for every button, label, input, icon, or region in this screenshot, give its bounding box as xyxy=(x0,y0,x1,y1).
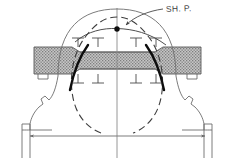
tick-mark-upper xyxy=(92,38,104,47)
shp-label: SH. P. xyxy=(166,3,192,14)
tick-mark-upper xyxy=(72,38,84,47)
figure-canvas: SH. P. xyxy=(0,0,235,167)
inner-arch-curve xyxy=(75,28,166,45)
tick-mark-lower xyxy=(92,74,104,83)
engineering-drawing-svg xyxy=(0,0,235,167)
tick-mark-upper xyxy=(150,38,162,47)
tick-mark-upper xyxy=(130,38,142,47)
marked-point xyxy=(114,26,119,31)
outer-profile-left xyxy=(30,76,58,130)
tick-mark-lower xyxy=(130,74,142,83)
outer-profile-right xyxy=(176,76,204,130)
